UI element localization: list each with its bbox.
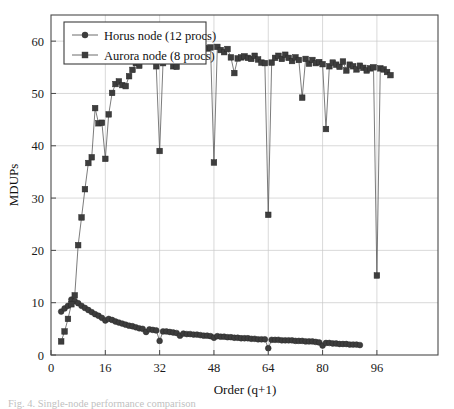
axis-tick-labels: 01632486480960102030405060 xyxy=(32,35,384,375)
x-axis-title: Order (q+1) xyxy=(214,382,277,397)
data-point xyxy=(89,154,95,160)
y-tick-label: 50 xyxy=(32,87,45,101)
data-point xyxy=(69,301,75,307)
data-point xyxy=(157,148,163,154)
legend-label: Aurora node (8 procs) xyxy=(104,49,215,63)
series-line-1 xyxy=(61,44,390,342)
data-point xyxy=(65,316,71,322)
data-point xyxy=(157,338,163,344)
data-point xyxy=(265,212,271,218)
data-point xyxy=(79,215,85,221)
figure-caption: Fig. 4. Single-node performance comparis… xyxy=(8,398,196,409)
data-point xyxy=(153,328,159,334)
data-point xyxy=(103,156,109,162)
legend-circle-icon xyxy=(82,32,88,38)
data-point xyxy=(62,329,68,335)
data-point xyxy=(123,83,129,89)
x-tick-label: 96 xyxy=(371,361,384,375)
data-point xyxy=(82,186,88,192)
data-point xyxy=(262,60,268,66)
y-axis-title: MDUPs xyxy=(6,164,21,207)
y-tick-label: 10 xyxy=(32,296,45,310)
y-tick-label: 60 xyxy=(32,35,45,49)
data-point xyxy=(174,64,180,70)
x-tick-label: 32 xyxy=(153,361,166,375)
series-markers xyxy=(58,41,393,351)
data-point xyxy=(130,67,136,73)
x-tick-label: 80 xyxy=(316,361,329,375)
x-tick-label: 16 xyxy=(99,361,112,375)
data-point xyxy=(232,70,238,76)
data-point xyxy=(72,293,78,299)
data-point xyxy=(388,72,394,78)
data-point xyxy=(320,61,326,67)
x-tick-label: 48 xyxy=(208,361,221,375)
data-point xyxy=(357,342,363,348)
data-point xyxy=(299,95,305,101)
data-point xyxy=(109,90,115,96)
data-point xyxy=(262,336,268,342)
chart-legend: Horus node (12 procs)Aurora node (8 proc… xyxy=(64,22,216,64)
data-point xyxy=(337,64,343,70)
data-point xyxy=(374,273,380,279)
data-point xyxy=(126,73,132,79)
y-tick-label: 30 xyxy=(32,192,45,206)
legend-square-icon xyxy=(82,52,88,58)
data-point xyxy=(211,160,217,166)
x-tick-label: 0 xyxy=(48,361,54,375)
x-tick-label: 64 xyxy=(262,361,275,375)
data-point xyxy=(92,105,98,111)
data-point xyxy=(323,126,329,132)
data-point xyxy=(106,112,112,118)
legend-label: Horus node (12 procs) xyxy=(104,29,216,43)
y-tick-label: 40 xyxy=(32,139,45,153)
data-point xyxy=(228,55,234,61)
y-tick-label: 20 xyxy=(32,244,45,258)
data-point xyxy=(58,339,64,345)
data-point xyxy=(344,68,350,74)
data-point xyxy=(75,242,81,248)
data-point xyxy=(371,65,377,71)
data-point xyxy=(340,59,346,65)
data-point xyxy=(86,160,92,166)
data-point xyxy=(225,46,231,52)
y-tick-label: 0 xyxy=(38,349,44,363)
data-point xyxy=(99,120,105,126)
data-point xyxy=(296,57,302,63)
